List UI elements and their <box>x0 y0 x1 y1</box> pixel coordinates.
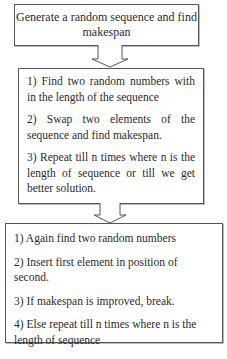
swap-step-2: 2) Swap two elements of the sequence and… <box>27 112 195 143</box>
insert-phase-box: 1) Again find two random numbers 2) Inse… <box>5 223 223 343</box>
insert-step-2: 2) Insert first element in position of s… <box>14 255 214 286</box>
start-box: Generate a random sequence and find make… <box>14 4 199 46</box>
start-box-text: Generate a random sequence and find make… <box>16 10 197 39</box>
insert-step-4: 4) Else repeat till n times where n is t… <box>14 317 214 348</box>
insert-step-3: 3) If makespan is improved, break. <box>14 294 214 310</box>
insert-step-1: 1) Again find two random numbers <box>14 231 214 247</box>
swap-step-1: 1) Find two random numbers with in the l… <box>27 74 195 105</box>
down-arrow-icon <box>88 45 132 69</box>
down-arrow-icon <box>88 203 132 224</box>
swap-phase-box: 1) Find two random numbers with in the l… <box>18 68 204 204</box>
swap-step-3: 3) Repeat till n times where n is the le… <box>27 150 195 197</box>
